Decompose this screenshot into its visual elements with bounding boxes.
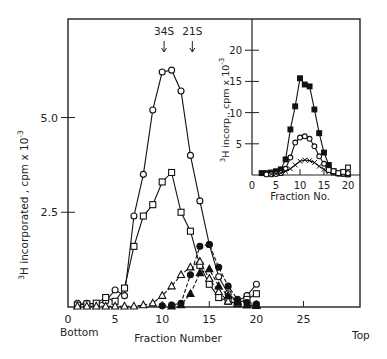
- main-point-open-triangle: [177, 271, 184, 278]
- main-x-tick-label: 0: [65, 313, 72, 326]
- inset-point-filled-square: [293, 104, 298, 109]
- main-point-filled-circle: [187, 272, 193, 278]
- inset-x-tick-label: 20: [342, 180, 355, 191]
- main-y-axis-label: 3H incorporated , cpm x 10-3: [16, 130, 30, 280]
- inset-point-filled-square: [288, 127, 293, 132]
- sedimentation-marker-label: 21S: [182, 25, 202, 37]
- sedimentation-marker-label: 34S: [154, 25, 174, 37]
- main-x-label-top: Top: [351, 329, 370, 341]
- main-x-axis-label: Fraction Number: [134, 332, 222, 344]
- main-point-open-circle: [159, 69, 165, 75]
- main-point-open-square: [140, 213, 146, 219]
- inset-x-tick-label: 10: [294, 180, 307, 191]
- inset-point-cross: [317, 164, 322, 169]
- main-y-tick-label: 2.5: [41, 206, 59, 219]
- main-x-tick-label: 20: [249, 313, 263, 326]
- inset-point-open-circle: [288, 155, 293, 160]
- inset-point-filled-square: [259, 171, 264, 176]
- inset-x-tick-label: 15: [318, 180, 331, 191]
- inset-y-tick-label: 10: [229, 108, 242, 119]
- inset-point-open-circle: [264, 172, 269, 177]
- inset-point-open-square: [341, 169, 346, 174]
- main-point-open-triangle: [121, 302, 128, 309]
- inset-point-filled-square: [317, 131, 322, 136]
- main-point-open-circle: [178, 88, 184, 94]
- main-point-open-circle: [253, 281, 259, 287]
- inset-point-open-circle: [312, 144, 317, 149]
- inset-y-axis-label: 3H incorp., cpm x 10-3: [218, 58, 231, 163]
- main-point-open-triangle: [130, 302, 137, 309]
- inset-point-open-circle: [293, 140, 298, 145]
- inset-ylabel-exp: -3: [218, 58, 226, 65]
- down-arrow-icon: [190, 41, 195, 52]
- main-point-filled-circle: [159, 303, 165, 309]
- main-ylabel-base: H incorporated , cpm x 10: [18, 138, 30, 275]
- main-point-open-square: [103, 295, 109, 301]
- inset-y-tick-label: 15: [229, 76, 242, 87]
- main-x-tick-label: 15: [202, 313, 216, 326]
- main-point-open-square: [216, 295, 222, 301]
- main-point-open-circle: [112, 287, 118, 293]
- inset-point-filled-square: [298, 76, 303, 81]
- inset-point-cross: [293, 163, 298, 168]
- main-point-filled-triangle: [206, 265, 213, 272]
- inset-point-cross: [288, 166, 293, 171]
- inset-point-filled-square: [326, 163, 331, 168]
- main-y-tick-label: 5.0: [41, 112, 59, 125]
- main-point-open-circle: [197, 198, 203, 204]
- main-point-open-circle: [187, 152, 193, 158]
- inset-point-cross: [312, 160, 317, 165]
- main-point-open-circle: [140, 171, 146, 177]
- main-x-tick-label: 25: [296, 313, 310, 326]
- inset-x-tick-label: 5: [273, 180, 279, 191]
- main-point-filled-circle: [197, 243, 203, 249]
- inset-x-tick-label: 0: [249, 180, 255, 191]
- inset-point-filled-square: [302, 82, 307, 87]
- main-point-open-square: [159, 179, 165, 185]
- inset-point-open-circle: [298, 135, 303, 140]
- main-point-open-circle: [122, 293, 128, 299]
- main-ylabel-exp: -3: [16, 130, 25, 138]
- main-point-filled-circle: [216, 264, 222, 270]
- inset-point-filled-square: [312, 107, 317, 112]
- main-point-filled-triangle: [215, 282, 222, 289]
- main-point-open-circle: [150, 107, 156, 113]
- inset-point-open-square: [331, 169, 336, 174]
- main-x-label-bottom: Bottom: [60, 326, 99, 338]
- main-point-open-circle: [169, 67, 175, 73]
- inset-point-filled-square: [307, 84, 312, 89]
- inset-y-tick-label: 5: [236, 139, 242, 150]
- inset-ylabel-base: H incorp., cpm x 10: [220, 65, 231, 158]
- figure: 05101520252.55.034S21S 051015205101520 F…: [0, 0, 387, 359]
- inset-point-open-square: [346, 165, 351, 170]
- inset-point-open-circle: [322, 161, 327, 166]
- main-point-open-square: [178, 209, 184, 215]
- inset-point-open-square: [336, 171, 341, 176]
- main-point-open-circle: [131, 213, 137, 219]
- main-point-open-circle: [216, 274, 222, 280]
- main-point-open-square: [169, 169, 175, 175]
- main-point-open-square: [150, 202, 156, 208]
- main-point-filled-triangle: [187, 290, 194, 297]
- svg-text:3H incorporated , cpm x 10-3: 3H incorporated , cpm x 10-3: [16, 130, 30, 280]
- down-arrow-icon: [162, 41, 167, 52]
- main-point-open-square: [131, 243, 137, 249]
- inset-point-open-circle: [317, 154, 322, 159]
- main-point-open-square: [122, 285, 128, 291]
- inset-point-open-circle: [307, 136, 312, 141]
- inset-x-axis-label: Fraction No.: [270, 191, 330, 202]
- main-point-open-square: [253, 291, 259, 297]
- main-point-open-triangle: [149, 299, 156, 306]
- inset-point-open-circle: [346, 171, 351, 176]
- main-point-open-square: [187, 228, 193, 234]
- main-point-filled-circle: [206, 241, 212, 247]
- inset-point-open-circle: [302, 134, 307, 139]
- inset-point-open-square: [326, 168, 331, 173]
- main-point-open-triangle: [196, 258, 203, 265]
- main-x-tick-label: 5: [112, 313, 119, 326]
- svg-text:3H incorp., cpm x 10-3: 3H incorp., cpm x 10-3: [218, 58, 231, 163]
- inset-point-filled-square: [322, 150, 327, 155]
- main-point-filled-circle: [225, 283, 231, 289]
- main-plot-frame: [68, 19, 360, 307]
- inset-point-filled-square: [283, 157, 288, 162]
